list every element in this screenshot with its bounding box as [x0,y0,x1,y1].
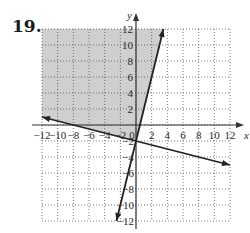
y-tick-label: 12 [122,23,133,35]
y-tick-label: −2 [122,135,134,147]
x-tick-label: −4 [99,129,111,141]
x-tick-label: −6 [83,129,95,141]
y-tick-label: 8 [128,55,134,67]
x-tick-label: 4 [165,129,171,141]
y-tick-label: 4 [128,87,134,99]
line-arrow-icon [42,116,50,122]
y-tick-label: −12 [117,215,134,227]
line-arrow-icon [222,160,230,166]
y-tick-label: −10 [117,199,135,211]
x-tick-label: 10 [209,129,221,141]
x-axis-arrow-icon [236,122,244,128]
x-tick-label: −10 [49,129,67,141]
x-tick-label: 8 [196,129,202,141]
x-tick-label: 2 [149,129,155,141]
y-tick-label: −4 [122,151,134,163]
x-tick-label: −8 [67,129,79,141]
y-tick-label: 10 [122,39,134,51]
inequality-graph: −12−10−8−6−4−202468101224681012−2−4−6−8−… [0,0,250,233]
y-tick-label: 6 [128,71,134,83]
x-tick-label: 6 [180,129,186,141]
y-tick-label: 2 [128,103,134,115]
x-axis-label: x [243,129,249,141]
y-axis-arrow-icon [133,13,139,21]
y-tick-label: −6 [122,167,134,179]
y-axis-label: y [126,9,132,21]
shaded-region [42,29,163,141]
y-tick-label: −8 [122,183,134,195]
x-tick-label: −12 [33,129,50,141]
x-tick-label: 12 [225,129,236,141]
